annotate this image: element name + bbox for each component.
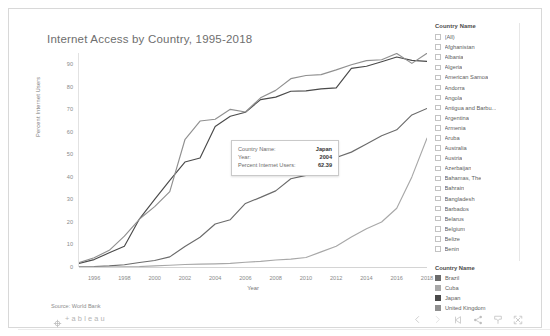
- filter-item-label: Angola: [445, 95, 463, 101]
- filter-item-label: Bahamas, The: [445, 175, 482, 181]
- filter-item[interactable]: Barbados: [433, 204, 519, 214]
- revert-icon[interactable]: [452, 314, 463, 325]
- filter-item[interactable]: Antigua and Barbu...: [433, 103, 519, 113]
- checkbox-icon[interactable]: [435, 155, 441, 161]
- checkbox-icon[interactable]: [435, 135, 441, 141]
- checkbox-icon[interactable]: [435, 105, 441, 111]
- y-axis-tick-label: 80: [67, 84, 73, 90]
- checkbox-icon[interactable]: [435, 176, 441, 182]
- filter-item-label: Belize: [445, 236, 461, 242]
- filter-item[interactable]: American Samoa: [433, 72, 519, 82]
- tooltip-key: Percent Internet Users:: [238, 161, 296, 169]
- checkbox-icon[interactable]: [435, 145, 441, 151]
- checkbox-icon[interactable]: [435, 246, 441, 252]
- x-axis-tick-label: 2016: [391, 275, 403, 281]
- country-filter-panel[interactable]: Country Name (All)AfghanistanAlbaniaAlge…: [433, 23, 519, 261]
- color-legend-label: United Kingdom: [445, 305, 485, 311]
- y-axis-tick-label: 70: [67, 106, 73, 112]
- checkbox-icon[interactable]: [435, 85, 441, 91]
- filter-item[interactable]: (All): [433, 32, 519, 42]
- filter-item[interactable]: Bahrain: [433, 183, 519, 193]
- x-axis-tick-label: 2008: [269, 275, 281, 281]
- color-legend-list[interactable]: BrazilCubaJapanUnited Kingdom: [433, 273, 529, 313]
- filter-item-label: Albania: [445, 54, 464, 60]
- checkbox-icon[interactable]: [435, 54, 441, 60]
- filter-item-label: Argentina: [445, 115, 469, 121]
- checkbox-icon[interactable]: [435, 226, 441, 232]
- filter-item[interactable]: Belize: [433, 234, 519, 244]
- x-axis-tick-label: 1998: [118, 275, 130, 281]
- filter-item-label: Barbados: [445, 206, 469, 212]
- y-axis-tick-label: 10: [67, 241, 73, 247]
- x-axis-title: Year: [79, 285, 427, 291]
- color-legend-item[interactable]: Brazil: [433, 273, 529, 283]
- color-legend-item[interactable]: Cuba: [433, 283, 529, 293]
- filter-item[interactable]: Armenia: [433, 123, 519, 133]
- back-icon[interactable]: [412, 314, 423, 325]
- tooltip-row: Year: 2004: [238, 153, 332, 161]
- checkbox-icon[interactable]: [435, 125, 441, 131]
- filter-item[interactable]: Aruba: [433, 133, 519, 143]
- checkbox-icon[interactable]: [435, 95, 441, 101]
- checkbox-icon[interactable]: [435, 65, 441, 71]
- chart-tooltip: Country Name: Japan Year: 2004 Percent I…: [231, 140, 339, 176]
- checkbox-icon[interactable]: [435, 186, 441, 192]
- checkbox-icon[interactable]: [435, 236, 441, 242]
- share-icon[interactable]: [472, 314, 483, 325]
- download-icon[interactable]: [492, 314, 503, 325]
- forward-icon[interactable]: [432, 314, 443, 325]
- filter-item-label: Armenia: [445, 125, 466, 131]
- checkbox-icon[interactable]: [435, 115, 441, 121]
- checkbox-icon[interactable]: [435, 196, 441, 202]
- filter-item[interactable]: Bangladesh: [433, 194, 519, 204]
- filter-item-label: Australia: [445, 145, 467, 151]
- filter-panel-title: Country Name: [435, 23, 519, 29]
- filter-item[interactable]: Andorra: [433, 82, 519, 92]
- filter-list[interactable]: (All)AfghanistanAlbaniaAlgeriaAmerican S…: [433, 32, 519, 256]
- filter-item[interactable]: Bahamas, The: [433, 173, 519, 183]
- tableau-wordmark: +ableau: [65, 314, 107, 323]
- footer-divider: [18, 329, 550, 330]
- tooltip-row: Country Name: Japan: [238, 145, 332, 153]
- filter-item[interactable]: Afghanistan: [433, 42, 519, 52]
- checkbox-icon[interactable]: [435, 75, 441, 81]
- tooltip-value: Japan: [316, 145, 332, 153]
- y-axis-tick-label: 40: [67, 174, 73, 180]
- color-legend-label: Japan: [445, 295, 461, 301]
- color-legend-item[interactable]: United Kingdom: [433, 303, 529, 313]
- x-axis-tick-label: 2004: [209, 275, 221, 281]
- filter-item[interactable]: Albania: [433, 52, 519, 62]
- filter-item[interactable]: Algeria: [433, 62, 519, 72]
- filter-item[interactable]: Belarus: [433, 214, 519, 224]
- tableau-viz-frame: Internet Access by Country, 1995-2018 Pe…: [8, 8, 542, 328]
- y-axis-tick-label: 50: [67, 151, 73, 157]
- x-axis-tick-label: 2006: [239, 275, 251, 281]
- viz-toolbar[interactable]: [412, 314, 523, 325]
- filter-item-label: Algeria: [445, 64, 463, 70]
- y-axis: 0102030405060708090: [49, 53, 75, 267]
- checkbox-icon[interactable]: [435, 206, 441, 212]
- filter-item[interactable]: Argentina: [433, 113, 519, 123]
- filter-item[interactable]: Angola: [433, 93, 519, 103]
- filter-item[interactable]: Australia: [433, 143, 519, 153]
- tableau-logo[interactable]: +ableau: [53, 314, 107, 323]
- filter-item[interactable]: Belgium: [433, 224, 519, 234]
- filter-item[interactable]: Azerbaijan: [433, 163, 519, 173]
- color-legend[interactable]: Country Name BrazilCubaJapanUnited Kingd…: [433, 265, 529, 313]
- x-axis: 1996199820002002200420062008201020122014…: [79, 269, 427, 285]
- filter-item-label: Afghanistan: [445, 44, 475, 50]
- tooltip-key: Country Name:: [238, 145, 276, 153]
- checkbox-icon[interactable]: [435, 34, 441, 40]
- fullscreen-icon[interactable]: [512, 314, 523, 325]
- filter-item[interactable]: Bermuda: [433, 254, 519, 256]
- filter-item-label: Belarus: [445, 216, 464, 222]
- checkbox-icon[interactable]: [435, 216, 441, 222]
- filter-item-label: Bangladesh: [445, 196, 475, 202]
- filter-item-label: Aruba: [445, 135, 460, 141]
- color-legend-item[interactable]: Japan: [433, 293, 529, 303]
- checkbox-icon[interactable]: [435, 166, 441, 172]
- filter-item[interactable]: Benin: [433, 244, 519, 254]
- tableau-mark-icon: [53, 314, 62, 323]
- filter-item[interactable]: Austria: [433, 153, 519, 163]
- checkbox-icon[interactable]: [435, 44, 441, 50]
